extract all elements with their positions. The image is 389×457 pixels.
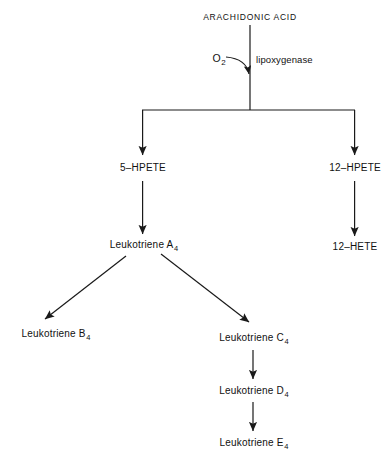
node-12-hpete: 12–HPETE (329, 162, 381, 173)
node-leukotriene-d4: Leukotriene D4 (219, 385, 289, 396)
node-leukotriene-d4-subscript: 4 (284, 389, 289, 398)
enzyme-lipoxygenase: lipoxygenase (256, 54, 313, 65)
node-leukotriene-b4-name: Leukotriene B (21, 328, 85, 339)
node-arachidonic-acid: ARACHIDONIC ACID (203, 12, 297, 22)
pathway-diagram: ARACHIDONIC ACID O2 lipoxygenase 5–HPETE… (0, 0, 389, 457)
node-leukotriene-b4-subscript: 4 (86, 332, 91, 341)
node-12-hete: 12–HETE (333, 241, 378, 252)
pathway-connector-graphic (0, 0, 389, 457)
node-leukotriene-a4-subscript: 4 (173, 243, 178, 252)
node-leukotriene-c4-subscript: 4 (284, 336, 289, 345)
node-leukotriene-b4: Leukotriene B4 (21, 328, 90, 339)
node-5-hpete: 5–HPETE (120, 162, 166, 173)
reactant-oxygen: O2 (212, 52, 226, 64)
node-leukotriene-a4: Leukotriene A4 (110, 239, 179, 250)
node-leukotriene-e4-name: Leukotriene E (219, 437, 283, 448)
node-leukotriene-c4: Leukotriene C4 (219, 332, 289, 343)
arrow-leukotriene-a-to-b (45, 256, 126, 319)
node-leukotriene-e4: Leukotriene E4 (219, 437, 288, 448)
node-leukotriene-a4-name: Leukotriene A (110, 239, 174, 250)
reactant-oxygen-subscript: 2 (221, 58, 226, 67)
arrow-leukotriene-a-to-c (161, 254, 249, 322)
node-leukotriene-d4-name: Leukotriene D (219, 385, 284, 396)
node-leukotriene-e4-subscript: 4 (284, 441, 289, 450)
oxygen-curved-arrow (226, 57, 249, 74)
node-leukotriene-c4-name: Leukotriene C (219, 332, 284, 343)
